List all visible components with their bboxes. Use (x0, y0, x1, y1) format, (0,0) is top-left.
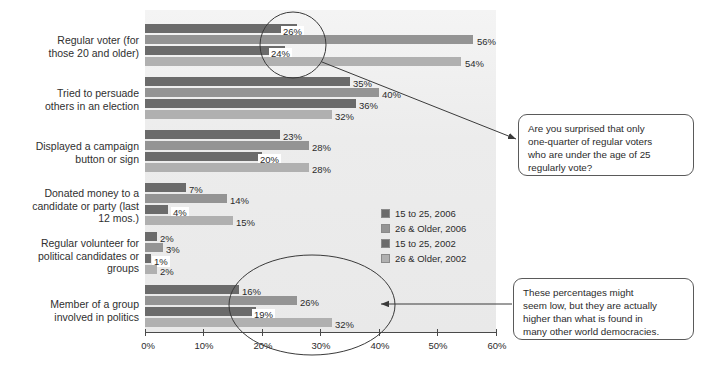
bar-donated-15to25-2002 (145, 205, 168, 214)
figure-root: Regular voter (for those 20 and older) T… (0, 0, 702, 372)
callout-line: higher than what is found in (523, 312, 684, 325)
category-label-line: Regular volunteer for (6, 237, 139, 250)
category-label-line: Regular voter (for (6, 34, 139, 47)
bar-volunteer-15to25-2006 (145, 232, 157, 241)
category-label-line: Member of a group (6, 298, 139, 311)
x-axis-tick (496, 329, 497, 336)
category-label-regular-voter: Regular voter (for those 20 and older) (6, 34, 139, 59)
category-label-persuade-others: Tried to persuade others in an election (6, 87, 139, 112)
bar-value-label: 16% (242, 287, 261, 296)
legend-label: 26 & Older, 2006 (395, 223, 466, 234)
category-label-line: those 20 and older) (6, 47, 139, 60)
category-label-line: 12 mos.) (6, 212, 139, 225)
bar-campaign-button-26older-2006 (145, 141, 309, 150)
bar-donated-15to25-2006 (145, 183, 186, 192)
bar-member-group-26older-2006 (145, 296, 297, 305)
legend-label: 15 to 25, 2006 (395, 208, 456, 219)
x-axis-tick (145, 329, 146, 336)
bar-regular-voter-15to25-2006 (145, 24, 297, 33)
bar-value-label: 32% (335, 112, 354, 121)
bar-value-label: 26% (300, 298, 319, 307)
chart-legend: 15 to 25, 2006 26 & Older, 2006 15 to 25… (381, 206, 501, 266)
legend-swatch-icon (381, 254, 390, 263)
bar-volunteer-26older-2002 (145, 265, 157, 274)
bar-donated-26older-2002 (145, 216, 233, 225)
callout-line: one-quarter of regular voters (528, 135, 684, 148)
bar-value-label: 2% (160, 234, 174, 243)
category-label-donated-money: Donated money to a candidate or party (l… (6, 187, 139, 225)
bar-regular-voter-15to25-2002 (145, 46, 285, 55)
legend-item-15to25-2006: 15 to 25, 2006 (381, 206, 501, 221)
x-axis-tick-label: 40% (370, 340, 389, 351)
callout-line: These percentages might (523, 286, 684, 299)
category-label-line: political candidates or (6, 250, 139, 263)
category-axis-labels: Regular voter (for those 20 and older) T… (6, 10, 139, 332)
bar-volunteer-15to25-2002 (145, 254, 151, 263)
bar-value-label: 56% (477, 37, 496, 46)
callout-line: Are you surprised that only (528, 122, 684, 135)
category-label-regular-volunteer: Regular volunteer for political candidat… (6, 237, 139, 275)
bar-member-group-15to25-2002 (145, 307, 256, 316)
bar-value-label: 35% (353, 79, 372, 88)
bar-campaign-button-15to25-2006 (145, 130, 280, 139)
bar-member-group-15to25-2006 (145, 285, 239, 294)
x-axis-tick (203, 329, 204, 336)
bar-value-label: 15% (236, 218, 255, 227)
bar-persuade-26older-2002 (145, 110, 332, 119)
category-label-line: Donated money to a (6, 187, 139, 200)
category-label-line: groups (6, 262, 139, 275)
category-label-line: involved in politics (6, 311, 139, 324)
bar-value-label: 23% (283, 132, 302, 141)
bar-donated-26older-2006 (145, 194, 227, 203)
category-label-line: others in an election (6, 100, 139, 113)
bar-regular-voter-26older-2006 (145, 35, 473, 44)
x-axis-tick (262, 329, 263, 336)
bar-volunteer-26older-2006 (145, 243, 163, 252)
category-label-line: Displayed a campaign (6, 140, 139, 153)
category-label-line: Tried to persuade (6, 87, 139, 100)
legend-swatch-icon (381, 239, 390, 248)
x-axis-tick (320, 329, 321, 336)
bar-campaign-button-15to25-2002 (145, 152, 262, 161)
category-label-line: candidate or party (last (6, 200, 139, 213)
callout-line: regularly vote? (528, 161, 684, 174)
x-axis-tick (437, 329, 438, 336)
bar-value-label: 14% (230, 196, 249, 205)
callout-line: who are under the age of 25 (528, 148, 684, 161)
category-label-campaign-button: Displayed a campaign button or sign (6, 140, 139, 165)
legend-label: 15 to 25, 2002 (395, 238, 456, 249)
bar-value-label: 2% (160, 267, 174, 276)
x-axis-tick-label: 60% (487, 340, 506, 351)
x-axis-tick-label: 30% (311, 340, 330, 351)
bar-value-label: 36% (359, 101, 378, 110)
bar-member-group-26older-2002 (145, 318, 332, 327)
legend-item-26older-2002: 26 & Older, 2002 (381, 251, 501, 266)
bar-value-label: 54% (465, 59, 484, 68)
bar-persuade-15to25-2002 (145, 99, 356, 108)
callout-top: Are you surprised that only one-quarter … (518, 114, 694, 176)
bar-value-label: 3% (166, 245, 180, 254)
legend-swatch-icon (381, 209, 390, 218)
bar-value-label: 40% (382, 90, 401, 99)
bar-value-label: 7% (189, 185, 203, 194)
legend-swatch-icon (381, 224, 390, 233)
callout-line: many other world democracies. (523, 325, 684, 338)
bar-regular-voter-26older-2002 (145, 57, 461, 66)
legend-item-26older-2006: 26 & Older, 2006 (381, 221, 501, 236)
x-axis-tick-label: 10% (194, 340, 213, 351)
bar-value-label: 28% (312, 143, 331, 152)
x-axis-tick-label: 0% (141, 340, 155, 351)
legend-label: 26 & Older, 2002 (395, 253, 466, 264)
callout-line: seem low, but they are actually (523, 299, 684, 312)
x-axis-tick (379, 329, 380, 336)
category-label-line: button or sign (6, 153, 139, 166)
legend-item-15to25-2002: 15 to 25, 2002 (381, 236, 501, 251)
bar-value-label: 28% (312, 165, 331, 174)
bar-persuade-26older-2006 (145, 88, 379, 97)
bar-persuade-15to25-2006 (145, 77, 350, 86)
bar-campaign-button-26older-2002 (145, 163, 309, 172)
x-axis-tick-label: 50% (428, 340, 447, 351)
category-label-member-of-group: Member of a group involved in politics (6, 298, 139, 323)
bar-value-label: 32% (335, 320, 354, 329)
x-axis-tick-label: 20% (253, 340, 272, 351)
